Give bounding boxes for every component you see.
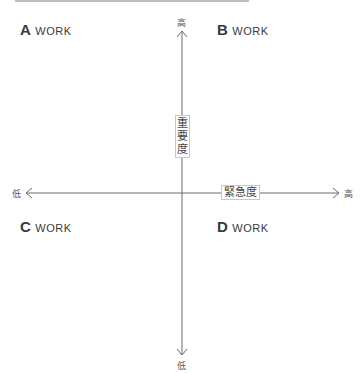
quadrant-letter: A [20, 21, 31, 38]
horizontal-axis-title: 緊急度 [221, 185, 260, 200]
vertical-low-label: 低 [177, 359, 186, 372]
quadrant-a: AWORK [20, 21, 72, 38]
quadrant-letter: D [217, 218, 228, 235]
quadrant-label: WORK [35, 25, 71, 37]
quadrant-c: CWORK [20, 218, 72, 235]
vertical-axis-title: 重要度 [175, 115, 190, 158]
quadrant-label: WORK [35, 222, 71, 234]
quadrant-letter: C [20, 218, 31, 235]
quadrant-label: WORK [232, 25, 268, 37]
quadrant-letter: B [217, 21, 228, 38]
vertical-high-label: 高 [177, 16, 186, 29]
quadrant-label: WORK [232, 222, 268, 234]
horizontal-high-label: 高 [344, 187, 353, 200]
quadrant-d: DWORK [217, 218, 269, 235]
quadrant-b: BWORK [217, 21, 269, 38]
horizontal-low-label: 低 [12, 187, 21, 200]
axes-graphic [0, 0, 360, 373]
